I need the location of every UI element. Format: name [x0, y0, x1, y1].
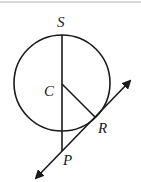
radius-c-r: [62, 84, 95, 117]
label-p: P: [62, 152, 72, 168]
geometry-diagram: S C R P: [0, 0, 141, 182]
label-s: S: [57, 14, 65, 30]
label-c: C: [44, 83, 55, 99]
label-r: R: [97, 120, 107, 136]
